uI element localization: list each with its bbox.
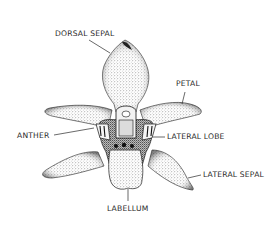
leader-petal: [182, 92, 185, 104]
orchid-diagram: [0, 0, 280, 226]
label-lateral-lobe: LATERAL LOBE: [167, 133, 225, 141]
label-dorsal-sepal: DORSAL SEPAL: [55, 30, 114, 38]
anther-cap: [119, 120, 133, 136]
label-petal: PETAL: [176, 80, 200, 88]
leader-dorsal-sepal: [89, 40, 110, 53]
leader-anther: [54, 128, 94, 135]
leader-lateral-sepal: [188, 175, 201, 178]
lateral-sepal-right: [148, 150, 193, 190]
label-lateral-sepal: LATERAL SEPAL: [203, 171, 264, 179]
labellum: [109, 150, 143, 189]
lateral-lobe-left: [96, 124, 110, 140]
dorsal-sepal: [102, 40, 148, 112]
lateral-sepal-left: [43, 152, 104, 178]
label-labellum: LABELLUM: [107, 205, 148, 213]
lateral-lobe-right: [142, 124, 156, 140]
label-anther: ANTHER: [17, 132, 50, 140]
